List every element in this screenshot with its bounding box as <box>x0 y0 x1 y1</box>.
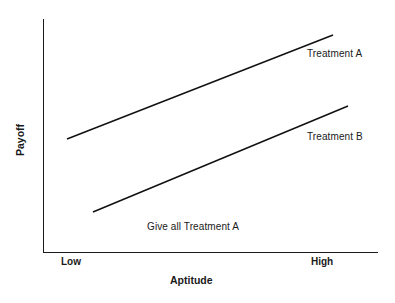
series-label-treatment-b: Treatment B <box>307 131 363 142</box>
x-axis-title: Aptitude <box>170 274 213 286</box>
annotation-give-all-treatment-a: Give all Treatment A <box>147 221 239 232</box>
series-label-treatment-a: Treatment A <box>307 48 362 59</box>
chart-container: Treatment A Treatment B Give all Treatme… <box>0 0 395 303</box>
y-axis-title: Payoff <box>14 124 26 156</box>
x-tick-label-low: Low <box>61 256 81 267</box>
series-line-treatment-b <box>93 106 348 212</box>
series-line-treatment-a <box>67 35 333 139</box>
plot-area <box>0 0 395 303</box>
x-tick-label-high: High <box>311 256 333 267</box>
